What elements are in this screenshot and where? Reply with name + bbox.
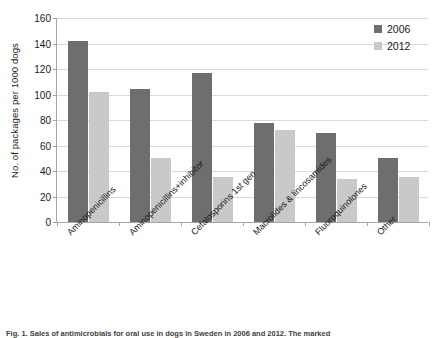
figure-caption: Fig. 1. Sales of antimicrobials for oral… <box>6 329 442 338</box>
bar-2006-5 <box>378 158 398 222</box>
y-tick-label-60: 60 <box>40 140 51 151</box>
bar-2006-1 <box>130 89 150 222</box>
x-tick-mark-end <box>429 222 430 226</box>
y-tick-label-40: 40 <box>40 166 51 177</box>
y-tick-label-160: 160 <box>34 13 51 24</box>
legend-label-2012: 2012 <box>387 40 410 52</box>
x-axis-labels-group: AminopenicillinsAminopenicillins+inhibit… <box>56 222 428 322</box>
bar-2006-3 <box>254 123 274 222</box>
legend-item-2006: 2006 <box>374 20 444 37</box>
y-tick-label-80: 80 <box>40 115 51 126</box>
chart-legend: 2006 2012 <box>374 20 444 54</box>
bar-2006-0 <box>68 41 88 222</box>
y-axis-title: No. of packages per 1000 dogs <box>9 31 20 191</box>
legend-item-2012: 2012 <box>374 37 444 54</box>
bar-2012-5 <box>399 177 419 222</box>
y-tick-label-20: 20 <box>40 191 51 202</box>
y-tick-label-0: 0 <box>45 217 51 228</box>
bar-2006-2 <box>192 73 212 222</box>
y-tick-label-100: 100 <box>34 89 51 100</box>
legend-swatch-icon-2012 <box>374 42 382 50</box>
legend-label-2006: 2006 <box>387 23 410 35</box>
figure-container: No. of packages per 1000 dogs 0204060801… <box>0 0 447 338</box>
y-tick-label-140: 140 <box>34 38 51 49</box>
legend-swatch-icon-2006 <box>374 25 382 33</box>
y-tick-label-120: 120 <box>34 64 51 75</box>
